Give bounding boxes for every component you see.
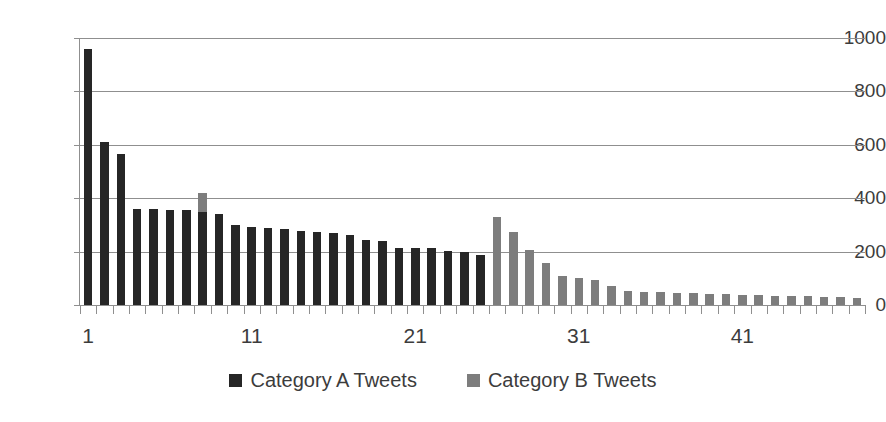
bar-category-a[interactable]	[460, 252, 469, 305]
bar-category-a[interactable]	[444, 251, 453, 305]
bar-category-a[interactable]	[476, 255, 485, 305]
bar-category-a[interactable]	[133, 209, 142, 305]
bar-category-a[interactable]	[149, 209, 158, 305]
bar-slot	[313, 38, 322, 305]
x-axis-tick-mark	[538, 306, 539, 314]
bar-category-a[interactable]	[378, 241, 387, 305]
bar-category-a[interactable]	[395, 248, 404, 305]
bar-category-b[interactable]	[591, 280, 600, 305]
bar-slot	[378, 38, 387, 305]
x-axis-tick-mark	[211, 306, 212, 314]
bar-slot	[166, 38, 175, 305]
x-axis-tick-mark	[701, 306, 702, 314]
legend-item-category-b[interactable]: Category B Tweets	[467, 370, 657, 390]
bar-category-b[interactable]	[820, 297, 829, 305]
x-axis-tick-mark	[391, 306, 392, 314]
bar-category-a[interactable]	[411, 248, 420, 305]
x-axis-tick-mark	[162, 306, 163, 314]
bar-slot	[836, 38, 845, 305]
bar-category-a[interactable]	[117, 154, 126, 305]
bar-slot	[607, 38, 616, 305]
x-axis-tick-mark	[244, 306, 245, 314]
bar-slot	[215, 38, 224, 305]
x-axis-tick-mark	[718, 306, 719, 314]
bar-category-b[interactable]	[607, 286, 616, 305]
x-axis-tick-mark	[652, 306, 653, 314]
bar-slot	[427, 38, 436, 305]
x-axis-tick-mark	[522, 306, 523, 314]
bar-category-a[interactable]	[84, 49, 93, 305]
bar-slot	[624, 38, 633, 305]
bar-category-a[interactable]	[329, 233, 338, 305]
bar-slot	[525, 38, 534, 305]
bar-chart: 02004006008001000 111213141 Category A T…	[0, 0, 886, 422]
legend-item-category-a[interactable]: Category A Tweets	[229, 370, 416, 390]
bar-slot	[149, 38, 158, 305]
bar-category-b[interactable]	[738, 295, 747, 305]
bar-slot	[84, 38, 93, 305]
bar-category-b[interactable]	[689, 293, 698, 305]
bar-category-a[interactable]	[198, 212, 207, 305]
bar-category-b[interactable]	[656, 292, 665, 305]
bar-category-a[interactable]	[264, 228, 273, 305]
bar-category-b[interactable]	[853, 298, 862, 305]
bar-slot	[673, 38, 682, 305]
bar-category-a[interactable]	[166, 210, 175, 305]
x-axis-tick-mark	[505, 306, 506, 314]
x-axis-tick-mark	[325, 306, 326, 314]
bar-category-a[interactable]	[231, 225, 240, 305]
bar-category-b[interactable]	[705, 294, 714, 305]
bar-category-b[interactable]	[575, 278, 584, 305]
x-axis-tick-mark	[276, 306, 277, 314]
bar-category-b[interactable]	[640, 292, 649, 305]
x-axis-tick-mark	[113, 306, 114, 314]
x-axis-tick-mark	[669, 306, 670, 314]
bar-category-b[interactable]	[787, 296, 796, 305]
x-axis-tick-mark	[587, 306, 588, 314]
bar-category-b[interactable]	[509, 232, 518, 305]
bar-category-b[interactable]	[673, 293, 682, 305]
x-axis-tick-mark	[816, 306, 817, 314]
x-axis-tick-mark	[636, 306, 637, 314]
bar-category-a[interactable]	[247, 227, 256, 305]
bar-category-a[interactable]	[297, 231, 306, 305]
bar-slot	[656, 38, 665, 305]
bar-slot	[231, 38, 240, 305]
bar-slot	[509, 38, 518, 305]
bar-slot	[738, 38, 747, 305]
bar-category-a[interactable]	[280, 229, 289, 305]
bar-slot	[117, 38, 126, 305]
x-axis-tick-mark	[489, 306, 490, 314]
bar-category-b[interactable]	[493, 217, 502, 305]
bar-slot	[722, 38, 731, 305]
x-axis-tick-mark	[685, 306, 686, 314]
legend-label-category-a: Category A Tweets	[250, 370, 416, 390]
bar-category-a[interactable]	[100, 142, 109, 305]
x-axis-tick-mark	[751, 306, 752, 314]
bar-category-b[interactable]	[558, 276, 567, 305]
bar-slot	[820, 38, 829, 305]
bar-category-b[interactable]	[754, 295, 763, 305]
x-axis-tick-mark	[309, 306, 310, 314]
x-axis-tick-mark	[783, 306, 784, 314]
x-axis-tick-mark	[603, 306, 604, 314]
x-axis-tick-mark	[571, 306, 572, 314]
bar-category-a[interactable]	[346, 235, 355, 305]
bar-category-a[interactable]	[313, 232, 322, 305]
bar-category-b[interactable]	[542, 263, 551, 305]
bar-category-a[interactable]	[182, 210, 191, 305]
bar-slot	[346, 38, 355, 305]
bar-category-b[interactable]	[525, 250, 534, 305]
bar-slot	[575, 38, 584, 305]
bar-category-b[interactable]	[722, 294, 731, 305]
bar-category-b[interactable]	[624, 291, 633, 305]
bar-slot	[411, 38, 420, 305]
bar-category-a[interactable]	[215, 214, 224, 305]
bar-category-a[interactable]	[362, 240, 371, 305]
bar-category-a[interactable]	[427, 248, 436, 305]
bar-category-b[interactable]	[836, 297, 845, 305]
bar-category-b[interactable]	[771, 296, 780, 305]
bar-category-b[interactable]	[804, 296, 813, 305]
bar-slot	[689, 38, 698, 305]
x-axis-tick-mark	[734, 306, 735, 314]
